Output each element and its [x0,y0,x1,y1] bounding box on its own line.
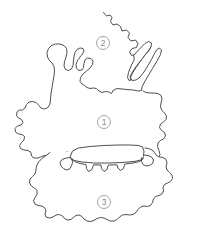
map-outlines [15,13,173,222]
region-marker-two-label: 2 [101,38,106,48]
map-canvas: 1 2 3 [0,0,206,248]
upper-region-outline [15,13,167,160]
region-marker-two: 2 [97,37,110,50]
center-panel-outline [71,145,145,163]
region-marker-one-label: 1 [102,117,107,127]
region-marker-three-label: 3 [102,197,107,207]
region-map-figure: 1 2 3 [0,0,206,248]
